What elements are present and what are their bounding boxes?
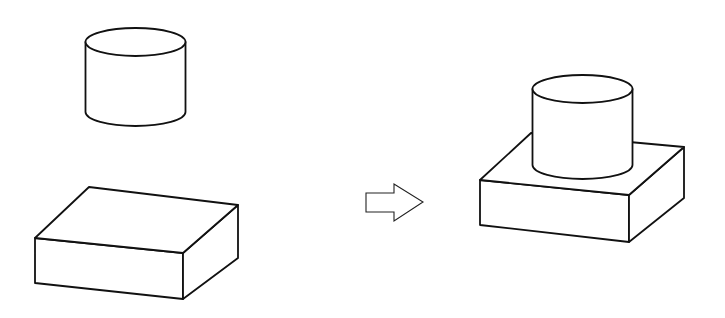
cylinder-assembled — [533, 75, 633, 179]
cylinder-top-face — [86, 28, 186, 56]
cylinder-separate — [86, 28, 186, 126]
after-group — [480, 75, 684, 242]
before-group — [35, 28, 238, 299]
block-separate — [35, 187, 238, 299]
right-arrow-outline-icon — [366, 184, 423, 221]
cylinder-top-face — [533, 75, 633, 103]
assembly-diagram — [0, 0, 725, 318]
